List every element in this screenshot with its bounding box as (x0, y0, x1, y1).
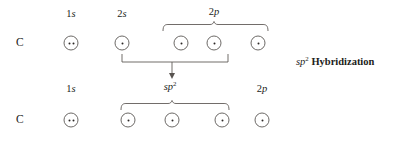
electron-dot (221, 119, 223, 121)
label-2p-bottom-l: p (262, 83, 267, 94)
hybridization-note-rest: Hybridization (309, 56, 375, 67)
electron-dot (261, 119, 263, 121)
orbital-1s-top (64, 36, 79, 51)
orbital-sp2-a (121, 113, 136, 128)
label-sp2-bottom-exponent: 2 (173, 80, 176, 87)
hybridization-note-sp: sp (296, 56, 305, 67)
orbital-label-2p-top: 2p (209, 6, 220, 17)
electron-dot (213, 42, 215, 44)
electron-dot (257, 42, 259, 44)
orbital-sp2-b (165, 113, 180, 128)
label-2p-top-l: p (214, 6, 219, 17)
electron-dot (68, 119, 70, 121)
brace-sp2-bottom (121, 101, 229, 111)
electron-dot (127, 119, 129, 121)
electron-dot (72, 119, 74, 121)
electron-dot (72, 42, 74, 44)
electron-dot (171, 119, 173, 121)
label-1s-top-l: s (72, 8, 76, 19)
orbital-hybridization-diagram: 1s 2s 2p C sp2 Hybridization 1s sp2 2p C (0, 0, 413, 142)
hybridization-note: sp2 Hybridization (296, 56, 374, 67)
label-1s-bottom-l: s (72, 83, 76, 94)
electron-dot (68, 42, 70, 44)
hybridization-arrow-head (169, 73, 175, 79)
brace-2p-top (163, 22, 268, 32)
orbital-label-1s-top: 1s (66, 8, 75, 19)
orbital-2p-y-top (207, 36, 222, 51)
orbital-2p-bottom (255, 113, 270, 128)
orbital-sp2-c (215, 113, 230, 128)
orbital-label-1s-bottom: 1s (66, 83, 75, 94)
orbital-2p-x-top (174, 36, 189, 51)
orbital-label-2s-top: 2s (117, 8, 126, 19)
hybridization-bracket (122, 54, 228, 62)
orbital-2p-z-top (251, 36, 266, 51)
label-sp2-bottom-l: sp (164, 81, 173, 92)
atom-label-carbon-bottom: C (16, 113, 24, 125)
label-2s-top-l: s (123, 8, 127, 19)
atom-label-carbon-top: C (16, 36, 24, 48)
electron-dot (180, 42, 182, 44)
orbital-1s-bottom (64, 113, 79, 128)
diagram-connectors (0, 0, 413, 142)
orbital-label-2p-bottom: 2p (257, 83, 268, 94)
orbital-label-sp2-bottom: sp2 (164, 81, 177, 92)
electron-dot (121, 42, 123, 44)
orbital-2s-top (115, 36, 130, 51)
